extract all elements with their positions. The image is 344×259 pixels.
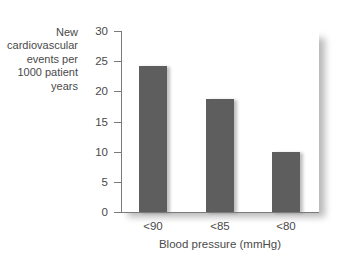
y-tick bbox=[114, 182, 121, 183]
y-tick bbox=[114, 91, 121, 92]
x-axis-title: Blood pressure (mmHg) bbox=[121, 238, 319, 250]
y-tick-label: 10 bbox=[82, 146, 108, 158]
y-tick-label: 25 bbox=[82, 55, 108, 67]
y-axis-title: New cardiovascular events per 1000 patie… bbox=[0, 26, 78, 93]
y-tick-label: 20 bbox=[82, 85, 108, 97]
bar-1 bbox=[206, 99, 234, 212]
y-tick bbox=[114, 152, 121, 153]
y-tick-label: 5 bbox=[82, 176, 108, 188]
y-tick bbox=[114, 212, 121, 213]
y-tick bbox=[114, 122, 121, 123]
bar-2 bbox=[272, 152, 300, 212]
y-axis-line bbox=[121, 31, 122, 213]
y-tick bbox=[114, 31, 121, 32]
y-tick-label: 15 bbox=[82, 116, 108, 128]
x-tick-label: <85 bbox=[200, 220, 240, 232]
bar-0 bbox=[139, 66, 167, 212]
x-axis-line bbox=[121, 212, 319, 213]
x-tick-label: <90 bbox=[133, 220, 173, 232]
y-tick-label: 30 bbox=[82, 25, 108, 37]
y-tick-label: 0 bbox=[82, 206, 108, 218]
x-tick-label: <80 bbox=[266, 220, 306, 232]
y-tick bbox=[114, 61, 121, 62]
